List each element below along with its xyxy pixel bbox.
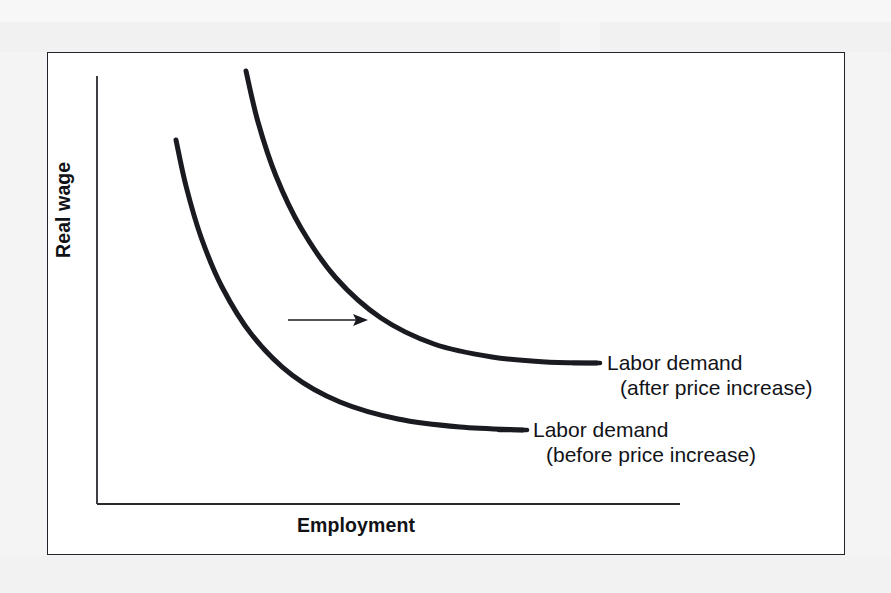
y-axis-title: Real wage	[52, 108, 75, 258]
background-band-bottom	[0, 556, 891, 593]
background-band-top	[0, 0, 891, 22]
figure-frame	[47, 52, 845, 555]
curve-label-before-line2: (before price increase)	[533, 442, 756, 467]
curve-label-after-line2: (after price increase)	[607, 375, 813, 400]
background-band-middle	[0, 22, 891, 52]
curve-label-before-line1: Labor demand	[533, 418, 668, 441]
curve-label-after-line1: Labor demand	[607, 351, 742, 374]
curve-label-after: Labor demand (after price increase)	[607, 350, 813, 400]
curve-label-before: Labor demand (before price increase)	[533, 417, 756, 467]
x-axis-title: Employment	[297, 514, 415, 537]
